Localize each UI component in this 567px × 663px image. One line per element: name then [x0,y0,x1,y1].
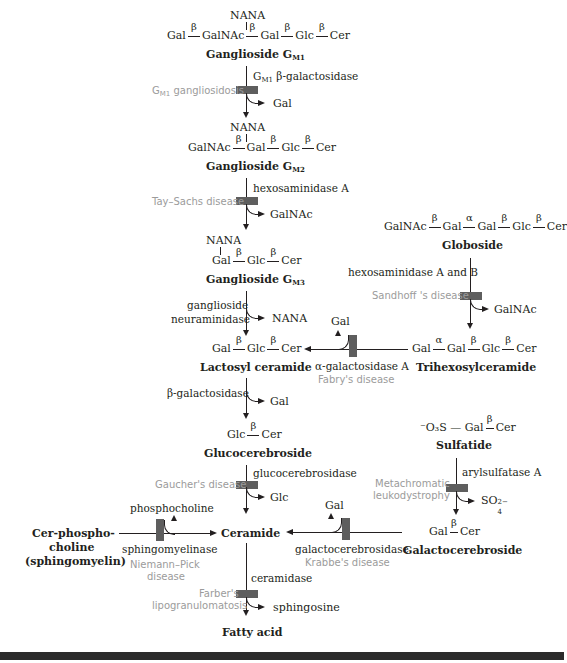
glucocerebroside-name: Glucocerebroside [204,447,312,460]
galactocerebroside-product: Gal [325,499,344,512]
trihexosyl-structure: GalαGalβGlcβCer [412,342,536,355]
sphingomyelin-reaction-arrow [119,533,212,534]
sphingomyelin-disease-line2: disease [147,571,185,583]
galactocerebroside-enzyme: galactocerebrosidase [295,543,409,556]
galactocerebroside-disease: Krabbe's disease [305,557,390,569]
glucocerebroside-enzyme: glucocerebrosidase [253,467,357,480]
arrow-down-icon [467,323,473,329]
arrow-down-icon [243,508,249,514]
sphingomyelin-name-line1: Cer-phospho- [32,527,115,540]
ceramide-product: sphingosine [273,601,340,614]
lactosyl-name: Lactosyl ceramide [200,361,312,374]
arrow-down-icon [243,112,249,118]
galactocerebroside-structure: GalβCer [429,525,480,538]
gm2-product: GalNAc [270,208,313,221]
sulfatide-enzyme: arylsulfatase A [462,466,541,479]
arrow-up-icon [328,513,334,519]
lactosyl-product: Gal [270,395,289,408]
ceramide-disease-line2: lipogranulomatosis [152,600,247,612]
gm2-enzyme: hexosaminidase A [253,182,349,195]
gm2-name: Ganglioside GM2 [206,160,305,176]
gm2-structure: GalNAcβGalβGlcβCer [188,141,336,154]
sphingomyelin-enzyme: sphingomyelinase [122,543,217,556]
gm1-product: Gal [273,97,292,110]
globoside-structure: GalNAcβGalαGalβGlcβCer [384,220,567,233]
sphingomyelin-product: phosphocholine [130,502,214,515]
bottom-rule [0,652,564,660]
gm2-disease: Tay–Sachs disease [152,196,244,208]
arrow-right-icon [258,398,265,404]
arrow-right-icon [258,494,265,500]
arrow-right-icon [210,530,217,536]
sphingomyelin-name-line2: choline [49,541,94,554]
sulfatide-product: SO2−4 [481,494,512,507]
sphingomyelin-disease-block [156,519,164,541]
arrow-right-icon [468,498,475,504]
arrow-left-icon [286,529,293,535]
arrow-left-icon [304,346,311,352]
fatty-acid-name: Fatty acid [222,626,282,639]
trihexosyl-product-curve [338,335,349,350]
gm3-enzyme-line2: neuraminidase [171,313,250,326]
gm1-name: Ganglioside GM1 [206,48,305,64]
trihexosyl-enzyme: α-galactosidase A [315,360,409,373]
ceramide-name: Ceramide [221,527,280,540]
galactocerebroside-name: Galactocerebroside [403,544,522,557]
galactocerebroside-product-curve [331,518,342,533]
gm1-enzyme: GM1 β-galactosidase [253,70,358,87]
globoside-name: Globoside [442,239,503,252]
lactosyl-enzyme: β-galactosidase [167,387,249,400]
sphingomyelin-name-line3: (sphingomyelin) [25,555,126,568]
globoside-enzyme: hexosaminidase A and B [348,266,478,279]
gm3-enzyme-line1: ganglioside [187,299,248,312]
arrow-up-icon [171,515,177,521]
gm3-structure: GalβGlcβCer [212,254,302,267]
sulfatide-disease-line1: Metachromatic [375,478,450,490]
trihexosyl-reaction-arrow [310,349,408,350]
globoside-disease: Sandhoff 's disease [372,290,469,302]
sulfatide-disease-line2: leukodystrophy [373,490,450,502]
globoside-product: GalNAc [494,303,537,316]
gm3-product: NANA [272,312,307,325]
sphingomyelin-disease-line1: Niemann–Pick [130,559,200,571]
arrow-right-icon [258,100,265,106]
ceramide-enzyme: ceramidase [251,572,312,585]
trihexosyl-disease-block [349,335,357,357]
gm1-disease: GM1 gangliosidosis [152,85,244,100]
ceramide-disease-line1: Farber's [199,588,239,600]
glucocerebroside-disease: Gaucher's disease [155,479,246,491]
trihexosyl-name: Trihexosylceramide [416,361,536,374]
arrow-up-icon [335,330,341,336]
glucocerebroside-structure: GlcβCer [227,428,282,441]
sulfatide-name: Sulfatide [436,439,492,452]
galactocerebroside-disease-block [342,518,350,540]
arrow-right-icon [482,306,489,312]
arrow-right-icon [258,211,265,217]
trihexosyl-product: Gal [331,315,350,328]
arrow-right-icon [258,315,265,321]
arrow-down-icon [453,509,459,515]
gm1-structure: GalβGalNAcβGalβGlcβCer [167,29,350,42]
lactosyl-structure: GalβGlcβCer [212,342,302,355]
arrow-down-icon [243,224,249,230]
gm3-name: Ganglioside GM3 [206,273,305,289]
sulfatide-structure: ⁻O₃S — GalβCer [420,421,516,434]
arrow-right-icon [258,604,265,610]
glucocerebroside-product: Glc [270,491,288,504]
trihexosyl-disease: Fabry's disease [318,374,394,386]
